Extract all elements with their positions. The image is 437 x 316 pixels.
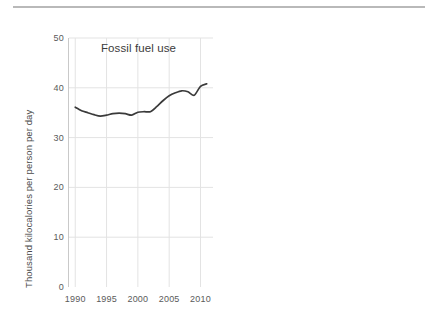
x-axis-tick-label: 1990: [65, 294, 86, 304]
figure-root: Thousand kilocalories per person per day…: [0, 0, 437, 316]
data-series-line: [75, 84, 206, 116]
x-axis-tick-label: 2005: [159, 294, 180, 304]
y-axis-tick-label: 0: [59, 282, 64, 292]
y-axis-title-left: Thousand kilocalories per person per day: [23, 110, 34, 288]
plot-area-fossil-fuel-use: Fossil fuel use 010203040501990199520002…: [68, 38, 213, 287]
x-axis-tick-label: 2000: [127, 294, 148, 304]
x-axis-tick-label: 1995: [96, 294, 117, 304]
x-axis-tick-label: 2010: [190, 294, 211, 304]
panel-improved-sanitation: % of population with access Improved san…: [232, 0, 437, 316]
y-axis-tick-label: 20: [54, 182, 64, 192]
chart-svg: [69, 38, 213, 287]
y-axis-tick-label: 30: [54, 133, 64, 143]
panel-fossil-fuel-use: Thousand kilocalories per person per day…: [0, 0, 232, 316]
y-axis-tick-label: 50: [54, 33, 64, 43]
y-axis-tick-label: 10: [54, 232, 64, 242]
y-axis-tick-label: 40: [54, 83, 64, 93]
chart-title-fossil-fuel-use: Fossil fuel use: [101, 42, 176, 54]
